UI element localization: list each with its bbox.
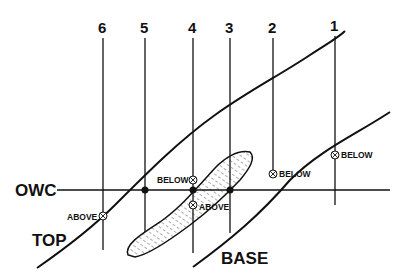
well-4-number: 4 (188, 19, 197, 36)
owc-label: OWC (15, 181, 57, 200)
top-horizon-line (37, 31, 345, 268)
well-2-number: 2 (268, 19, 276, 36)
marker-icon-well-6 (99, 212, 107, 220)
well-1: 1 (330, 17, 338, 205)
owc-intersection-dot-well-3 (227, 187, 234, 194)
well-3-number: 3 (225, 19, 233, 36)
well-1-number: 1 (330, 17, 338, 34)
well-2: 2 (268, 19, 276, 170)
well-3: 3 (225, 19, 233, 233)
well-4-above-label: ABOVE (199, 202, 230, 212)
marker-icon-well-1 (331, 151, 339, 159)
well-correlation-diagram: OWC 6 5 4 3 2 1 BELOW BELOW (0, 0, 400, 280)
well-6-number: 6 (98, 19, 106, 36)
well-2-below-label: BELOW (279, 169, 312, 179)
top-label: TOP (32, 231, 67, 250)
owc-intersection-dot-well-5 (142, 187, 149, 194)
well-6-above-label: ABOVE (67, 212, 98, 222)
owc-intersection-dot-well-4 (190, 187, 197, 194)
well-5: 5 (140, 19, 148, 232)
well-1-below-label: BELOW (341, 150, 374, 160)
marker-icon-well-4-below (189, 176, 197, 184)
marker-icon-well-2 (269, 170, 277, 178)
marker-icon-well-4-above (189, 201, 197, 209)
well-4-below-label: BELOW (157, 175, 190, 185)
base-label: BASE (221, 249, 268, 268)
well-5-number: 5 (140, 19, 148, 36)
